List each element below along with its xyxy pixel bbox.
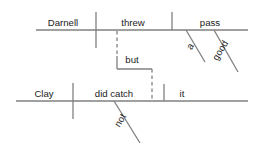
clause-bottom-verb-label: did catch bbox=[95, 88, 133, 99]
clause-bottom: notClaydid catchit bbox=[16, 83, 248, 143]
clause-bottom-adverb-modifier-label: not bbox=[112, 111, 128, 128]
clause-top-verb-label: threw bbox=[121, 17, 145, 28]
sentence-diagram: agoodDarnellthrewpassnotClaydid catchitb… bbox=[0, 0, 258, 151]
clause-top: agoodDarnellthrewpass bbox=[36, 12, 248, 72]
clause-bottom-direct-object-label: it bbox=[180, 88, 185, 99]
clause-top-adjective-modifier-label: good bbox=[210, 38, 230, 62]
clause-top-direct-object-label: pass bbox=[200, 17, 220, 28]
clause-top-article-modifier-label: a bbox=[184, 41, 197, 52]
clause-bottom-subject-label: Clay bbox=[34, 88, 53, 99]
diagram-canvas: agoodDarnellthrewpassnotClaydid catchitb… bbox=[0, 0, 258, 151]
clause-top-subject-label: Darnell bbox=[48, 17, 78, 28]
conjunction-label: but bbox=[125, 54, 139, 65]
